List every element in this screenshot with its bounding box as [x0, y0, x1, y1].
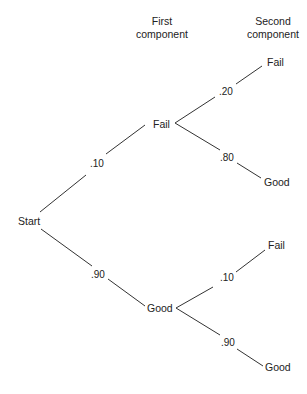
- edge-fail-good-b: [237, 163, 261, 178]
- edge-good-good-b: [237, 349, 263, 366]
- node-fail-good: Good: [264, 176, 290, 188]
- header-second-line1: Second: [228, 15, 307, 28]
- header-second-line2: component: [228, 28, 307, 41]
- edge-good-fail-a: [176, 287, 213, 308]
- edge-start-fail-a: [40, 175, 86, 212]
- node-first-good: Good: [147, 302, 173, 314]
- edge-start-good-b: [108, 279, 145, 306]
- edge-start-fail-b: [106, 125, 145, 154]
- node-start: Start: [18, 215, 40, 227]
- edge-good-fail-b: [236, 250, 265, 272]
- edge-good-good-a: [176, 308, 220, 335]
- header-second-component: Second component: [228, 15, 307, 40]
- prob-good-fail: .10: [220, 272, 234, 284]
- node-good-fail: Fail: [268, 239, 285, 251]
- edge-fail-fail-a: [175, 97, 215, 123]
- tree-edges: [0, 0, 307, 394]
- prob-good-good: .90: [221, 337, 235, 349]
- header-first-line2: component: [117, 28, 207, 41]
- prob-fail-fail: .20: [219, 86, 233, 98]
- node-first-fail: Fail: [153, 118, 170, 130]
- edge-fail-good-a: [175, 123, 220, 150]
- node-good-good: Good: [265, 361, 291, 373]
- edge-start-good-a: [41, 229, 92, 266]
- edge-fail-fail-b: [236, 66, 262, 84]
- prob-fail-good: .80: [220, 152, 234, 164]
- prob-start-good: .90: [91, 269, 105, 281]
- header-first-line1: First: [117, 15, 207, 28]
- node-fail-fail: Fail: [267, 56, 284, 68]
- prob-start-fail: .10: [90, 158, 104, 170]
- header-first-component: First component: [117, 15, 207, 40]
